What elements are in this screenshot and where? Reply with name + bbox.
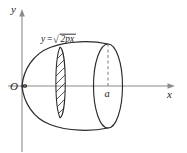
- equation-equals: =: [47, 34, 52, 44]
- paraboloid-diagram: y = √ 2px y x O a: [0, 0, 187, 153]
- y-axis-label: y: [10, 3, 16, 15]
- figure-container: y = √ 2px y x O a: [0, 0, 187, 153]
- equation-radicand: 2px: [61, 34, 76, 44]
- radical-sign: √: [53, 34, 59, 45]
- slab-front-edge: [60, 47, 65, 118]
- y-axis-arrowhead: [19, 9, 25, 17]
- cross-section-slab: [44, 40, 76, 153]
- equation-lhs: y: [40, 34, 46, 44]
- curve-equation-label: y = √ 2px: [40, 34, 76, 45]
- x-axis-label: x: [166, 88, 172, 100]
- origin-label: O: [10, 80, 18, 92]
- slab-hatching: [44, 40, 76, 153]
- x-mark-label-a: a: [105, 88, 110, 99]
